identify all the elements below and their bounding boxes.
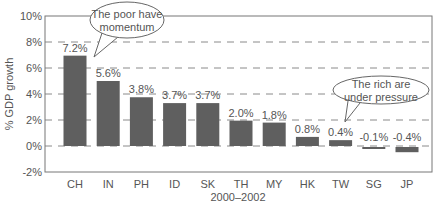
bar-th — [230, 121, 253, 146]
x-tick-my: MY — [266, 178, 283, 190]
value-label-ch: 7.2% — [62, 42, 87, 54]
bar-tw — [329, 140, 352, 146]
y-tick-label: 2% — [26, 114, 42, 126]
x-tick-hk: HK — [300, 178, 316, 190]
bar-ch — [64, 56, 87, 146]
callout-text: under pressure — [344, 91, 418, 103]
callout-tail — [345, 101, 360, 122]
bar-sg — [362, 147, 385, 149]
x-axis-ticks: CHINPHIDSKTHMYHKTWSGJP — [67, 178, 413, 190]
value-label-sk: 3.7% — [195, 89, 220, 101]
bar-id — [163, 103, 186, 146]
bar-my — [263, 123, 286, 146]
y-tick-label: 0% — [26, 140, 42, 152]
y-tick-label: 6% — [26, 62, 42, 74]
value-label-ph: 3.8% — [129, 83, 154, 95]
value-label-in: 5.6% — [96, 67, 121, 79]
value-label-sg: -0.1% — [359, 131, 388, 143]
y-tick-label: -2% — [22, 166, 42, 178]
bar-in — [97, 81, 120, 146]
y-tick-label: 8% — [26, 36, 42, 48]
value-label-my: 1.8% — [262, 109, 287, 121]
x-tick-th: TH — [234, 178, 249, 190]
chart-canvas: 10%8%6%4%2%0%-2% CHINPHIDSKTHMYHKTWSGJP … — [0, 0, 438, 207]
callout-text: The poor have — [92, 8, 163, 20]
value-label-th: 2.0% — [228, 107, 253, 119]
callout-1: The poor havemomentum — [90, 2, 164, 57]
x-tick-jp: JP — [401, 178, 414, 190]
x-tick-ch: CH — [67, 178, 83, 190]
bar-jp — [396, 147, 419, 152]
x-tick-tw: TW — [332, 178, 350, 190]
bar-ph — [130, 97, 153, 146]
bar-hk — [296, 137, 319, 146]
callout-text: momentum — [99, 21, 154, 33]
x-tick-in: IN — [103, 178, 114, 190]
x-tick-ph: PH — [134, 178, 149, 190]
value-label-hk: 0.8% — [295, 123, 320, 135]
callout-2: The rich areunder pressure — [333, 76, 429, 122]
y-axis-ticks: 10%8%6%4%2%0%-2% — [20, 10, 42, 178]
x-tick-sg: SG — [366, 178, 382, 190]
value-label-id: 3.7% — [162, 89, 187, 101]
y-tick-label: 10% — [20, 10, 42, 22]
value-label-tw: 0.4% — [328, 126, 353, 138]
y-tick-label: 4% — [26, 88, 42, 100]
bar-sk — [196, 103, 219, 146]
gdp-growth-bar-chart: 10%8%6%4%2%0%-2% CHINPHIDSKTHMYHKTWSGJP … — [0, 0, 438, 207]
x-tick-sk: SK — [200, 178, 215, 190]
x-tick-id: ID — [169, 178, 180, 190]
callout-text: The rich are — [352, 78, 411, 90]
y-axis-label: % GDP growth — [3, 58, 15, 131]
x-axis-label: 2000–2002 — [210, 191, 265, 203]
value-label-jp: -0.4% — [393, 131, 422, 143]
